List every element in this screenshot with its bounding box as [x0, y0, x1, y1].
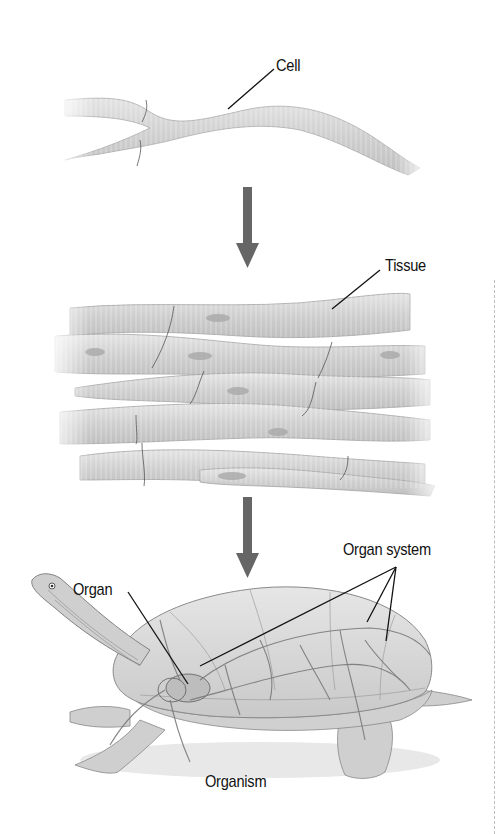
label-organism: Organism	[205, 772, 266, 792]
levels-of-organization-diagram: Cell Tissue Organ Organ system Organism	[0, 0, 499, 834]
label-organ: Organ	[73, 580, 112, 600]
page-edge-dashed-line	[494, 280, 495, 834]
turtle-illustration	[32, 574, 472, 779]
arrow-down-icon	[236, 497, 259, 578]
tissue-illustration	[45, 285, 445, 500]
cell-leader-line	[228, 69, 274, 109]
label-cell: Cell	[276, 56, 300, 76]
arrow-down-icon	[236, 187, 259, 268]
diagram-illustration	[0, 0, 499, 834]
cell-illustration	[55, 90, 430, 185]
label-tissue: Tissue	[385, 256, 426, 276]
label-organ-system: Organ system	[343, 540, 431, 560]
